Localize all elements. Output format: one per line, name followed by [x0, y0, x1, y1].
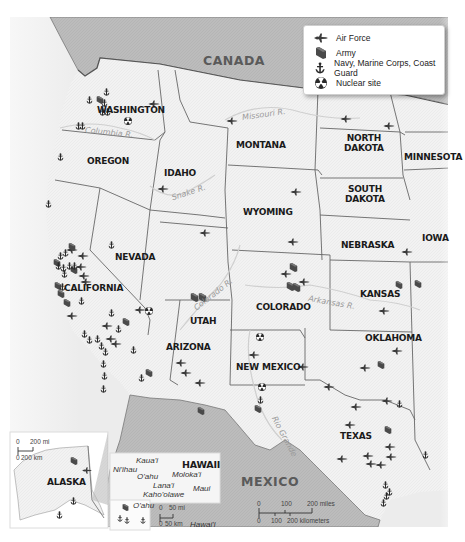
state-label-iowa: IOWA	[422, 233, 449, 243]
air-force-jet-icon	[314, 32, 328, 44]
state-label-nebraska: NEBRASKA	[341, 240, 394, 250]
scale-hawaii-mi-0: 0	[159, 504, 163, 511]
legend-row-navy: Navy, Marine Corps, Coast Guard	[314, 61, 444, 75]
legend-row-air-force: Air Force	[314, 31, 370, 45]
scale-main-mi-200: 200 miles	[307, 500, 335, 507]
state-label-line: NORTH	[347, 133, 381, 143]
anchor-icon	[314, 62, 326, 74]
island-label-lanai: Lana'i	[153, 481, 174, 490]
state-label-california: CALIFORNIA	[64, 283, 123, 293]
island-label-maui: Maui	[193, 484, 210, 493]
island-label-hawaii: Hawai'i	[190, 520, 216, 529]
island-label-niihau: Ni'ihau	[113, 465, 137, 474]
scale-hawaii-mi-50: 50 mi	[169, 504, 185, 511]
island-label-molokai: Moloka'i	[172, 470, 201, 479]
map-legend: Air Force Army Navy, Marine Corps, Coast…	[303, 25, 445, 95]
state-label-south-dakota: SOUTHDAKOTA	[345, 184, 385, 204]
state-label-oregon: OREGON	[87, 156, 129, 166]
legend-label: Navy, Marine Corps, Coast Guard	[334, 58, 444, 78]
scale-hawaii-km-0: 0	[159, 520, 163, 527]
state-label-utah: UTAH	[190, 316, 216, 326]
legend-row-nuclear: Nuclear site	[314, 76, 381, 90]
state-label-texas: TEXAS	[340, 431, 372, 441]
legend-label: Air Force	[336, 33, 370, 43]
country-label-canada: CANADA	[203, 53, 265, 68]
state-label-minnesota: MINNESOTA	[404, 152, 462, 162]
scale-main-km-200: 200 kilometers	[287, 517, 329, 524]
state-label-montana: MONTANA	[236, 140, 286, 150]
state-label-line: SOUTH	[348, 184, 382, 194]
state-label-washington: WASHINGTON	[97, 105, 165, 115]
island-label-kahoolawe: Kaho'olawe	[143, 490, 184, 499]
legend-label: Nuclear site	[336, 78, 381, 88]
island-label-oahu-inset: O'ahu	[133, 501, 154, 510]
state-label-line: DAKOTA	[344, 143, 384, 153]
state-label-alaska: ALASKA	[47, 477, 86, 487]
state-label-nevada: NEVADA	[115, 252, 155, 262]
country-label-mexico: MEXICO	[241, 474, 299, 489]
scale-alaska-km-200: 200 km	[21, 454, 42, 461]
island-label-oahu: O'ahu	[137, 472, 158, 481]
scale-hawaii-km-50: 50 km	[165, 520, 183, 527]
scale-alaska-mi-0: 0	[16, 438, 20, 445]
state-label-idaho: IDAHO	[164, 168, 196, 178]
island-label-kauai: Kaua'i	[136, 456, 158, 465]
state-label-kansas: KANSAS	[360, 289, 400, 299]
state-label-arizona: ARIZONA	[166, 342, 211, 352]
scale-alaska-km-0: 0	[16, 454, 20, 461]
state-label-new-mexico: NEW MEXICO	[236, 362, 300, 372]
scale-main-mi-0: 0	[257, 500, 261, 507]
scale-main-km-100: 100	[271, 517, 282, 524]
nuclear-radiation-icon	[314, 77, 328, 89]
state-label-colorado: COLORADO	[256, 302, 311, 312]
state-label-wyoming: WYOMING	[243, 207, 293, 217]
army-flag-icon	[314, 47, 328, 59]
legend-label: Army	[336, 48, 356, 58]
scale-alaska-mi-200: 200 mi	[30, 438, 50, 445]
state-label-north-dakota: NORTHDAKOTA	[344, 133, 384, 153]
state-label-oklahoma: OKLAHOMA	[365, 333, 422, 343]
scale-main-mi-100: 100	[281, 500, 292, 507]
state-label-line: DAKOTA	[345, 194, 385, 204]
scale-main-km-0: 0	[257, 517, 261, 524]
state-label-hawaii: HAWAII	[182, 460, 220, 470]
